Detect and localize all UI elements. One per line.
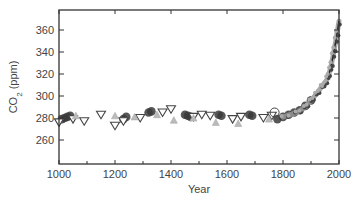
- y-tick-label: 320: [36, 68, 54, 80]
- data-point: [237, 113, 246, 121]
- co2-chart: 1000120014001600180020002602803003203403…: [0, 0, 356, 203]
- data-point: [326, 72, 330, 76]
- x-axis-label: Year: [188, 183, 211, 195]
- data-point: [327, 66, 331, 70]
- data-point: [217, 112, 226, 121]
- data-point: [167, 106, 176, 114]
- x-tick-label: 1800: [271, 168, 295, 180]
- data-point: [147, 107, 156, 116]
- data-point: [170, 117, 177, 124]
- x-tick-label: 1000: [47, 168, 71, 180]
- y-axis-label: CO2 (ppm): [7, 61, 24, 114]
- data-point: [330, 51, 334, 55]
- plot-area: [55, 21, 342, 130]
- data-point: [80, 118, 89, 126]
- data-point: [334, 49, 338, 53]
- series-circle-filled: [58, 96, 316, 123]
- data-point: [111, 122, 120, 130]
- data-point: [333, 36, 337, 40]
- data-point: [305, 103, 309, 107]
- data-point: [97, 111, 106, 119]
- y-tick-label: 360: [36, 24, 54, 36]
- data-point: [294, 110, 298, 114]
- y-tick-label: 280: [36, 112, 54, 124]
- y-tick-label: 300: [36, 90, 54, 102]
- data-point: [331, 46, 335, 50]
- data-point: [206, 112, 215, 120]
- plot-frame: [59, 10, 339, 164]
- data-point: [331, 64, 335, 68]
- data-point: [329, 60, 333, 64]
- data-point: [316, 89, 320, 93]
- x-tick-label: 1400: [159, 168, 183, 180]
- x-tick-label: 1200: [103, 168, 127, 180]
- data-point: [112, 112, 119, 119]
- series-dense-gray: [280, 21, 342, 119]
- x-tick-label: 1600: [215, 168, 239, 180]
- data-point: [310, 96, 314, 100]
- data-point: [332, 55, 336, 59]
- y-tick-label: 340: [36, 46, 54, 58]
- series-triangle-down-open: [55, 106, 277, 130]
- axes: 1000120014001600180020002602803003203403…: [36, 10, 352, 180]
- data-point: [280, 114, 284, 118]
- y-tick-label: 260: [36, 134, 54, 146]
- data-point: [212, 119, 219, 126]
- data-point: [287, 114, 291, 118]
- x-tick-label: 2000: [327, 168, 351, 180]
- data-point: [228, 116, 237, 124]
- data-point: [197, 111, 206, 119]
- data-point: [298, 109, 302, 113]
- data-point: [248, 112, 257, 121]
- data-point: [323, 80, 327, 84]
